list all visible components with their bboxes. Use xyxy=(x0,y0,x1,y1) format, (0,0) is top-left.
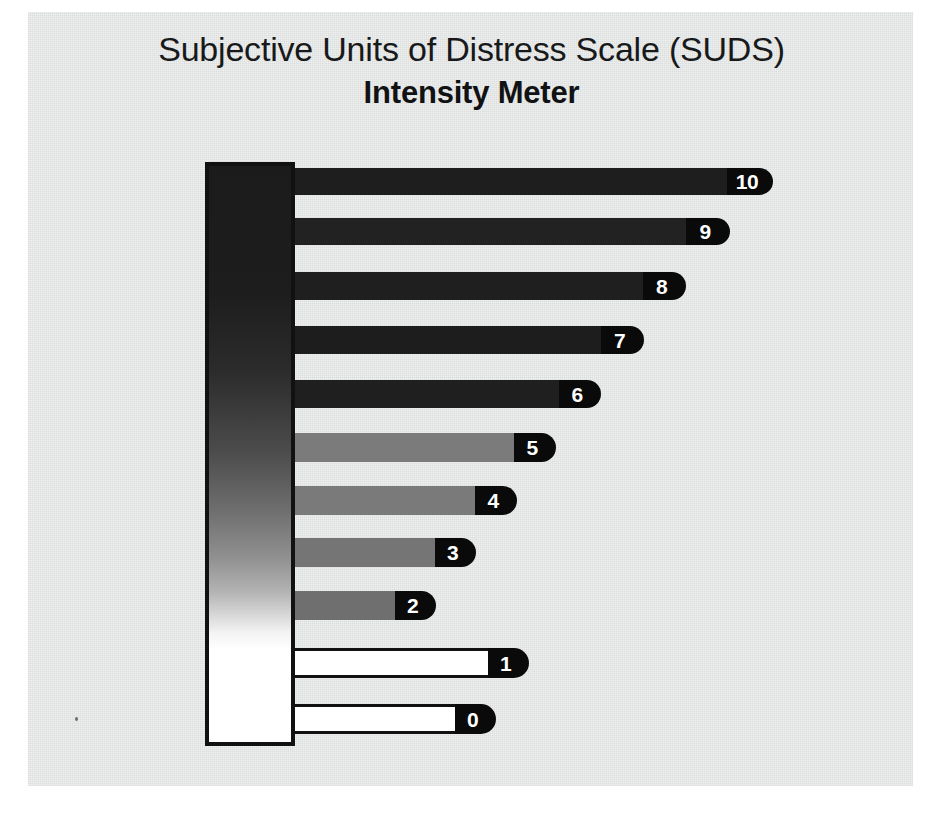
intensity-gradient-scale xyxy=(205,162,295,746)
scan-artifact-speck xyxy=(75,717,78,721)
scanned-page-background xyxy=(28,12,913,786)
